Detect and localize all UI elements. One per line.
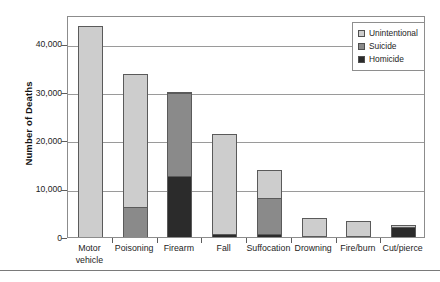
bar-group[interactable] [167, 92, 192, 237]
legend-swatch-icon [358, 43, 365, 50]
y-tick-mark [61, 190, 67, 191]
y-tick-mark [61, 45, 67, 46]
y-tick-label: 40,000 [14, 40, 62, 48]
legend-item-unintentional[interactable]: Unintentional [358, 27, 418, 40]
legend-item-label: Unintentional [369, 29, 418, 38]
legend-item-suicide[interactable]: Suicide [358, 40, 418, 53]
chart-legend: UnintentionalSuicideHomicide [352, 22, 425, 71]
footer-divider [0, 270, 440, 271]
legend-item-label: Suicide [369, 42, 396, 51]
y-tick-label: 30,000 [14, 89, 62, 97]
x-tick-label-line: Cut/pierce [376, 243, 429, 255]
bar-group[interactable] [391, 225, 416, 237]
bar-segment-suicide[interactable] [257, 198, 282, 233]
legend-swatch-icon [358, 56, 365, 63]
bar-segment-unintentional[interactable] [302, 218, 327, 236]
y-tick-label: 20,000 [14, 137, 62, 145]
x-tick-label-line: vehicle [63, 255, 116, 267]
bar-group[interactable] [346, 221, 371, 237]
bar-segment-unintentional[interactable] [212, 134, 237, 234]
bar-segment-homicide[interactable] [257, 234, 282, 237]
chart-figure: Number of Deaths 010,00020,00030,00040,0… [0, 0, 440, 282]
y-tick-label: 0 [14, 234, 62, 242]
bar-group[interactable] [302, 218, 327, 237]
bar-segment-homicide[interactable] [391, 227, 416, 237]
legend-swatch-icon [358, 30, 365, 37]
y-tick-mark [61, 93, 67, 94]
x-axis-tick-labels: MotorvehiclePoisoningFirearmFallSuffocat… [0, 243, 440, 281]
bar-group[interactable] [78, 26, 103, 237]
bar-group[interactable] [257, 170, 282, 237]
bar-group[interactable] [212, 134, 237, 237]
bar-segment-suicide[interactable] [167, 93, 192, 176]
y-tick-mark [61, 238, 67, 239]
bar-segment-unintentional[interactable] [123, 74, 148, 207]
bar-segment-unintentional[interactable] [78, 26, 103, 237]
y-tick-label: 10,000 [14, 185, 62, 193]
bar-segment-unintentional[interactable] [167, 92, 192, 93]
y-tick-mark [61, 141, 67, 142]
bar-segment-homicide[interactable] [212, 234, 237, 237]
bar-segment-suicide[interactable] [123, 207, 148, 237]
legend-item-label: Homicide [369, 55, 404, 64]
bar-segment-homicide[interactable] [167, 176, 192, 237]
legend-item-homicide[interactable]: Homicide [358, 53, 418, 66]
bar-group[interactable] [123, 74, 148, 237]
bar-segment-unintentional[interactable] [391, 225, 416, 227]
y-axis-tick-labels: 010,00020,00030,00040,000 [10, 0, 62, 282]
bar-segment-unintentional[interactable] [346, 221, 371, 237]
x-tick-label: Cut/pierce [376, 243, 429, 255]
bar-segment-unintentional[interactable] [257, 170, 282, 198]
